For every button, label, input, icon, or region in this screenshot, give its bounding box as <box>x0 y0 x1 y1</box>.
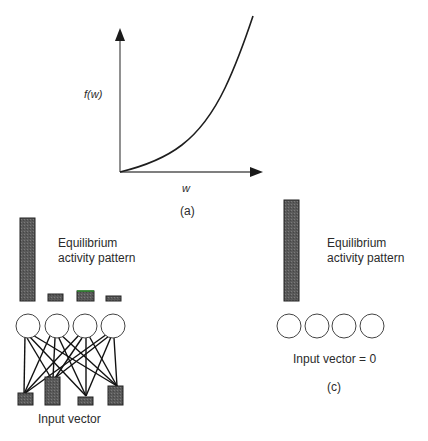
panel-b-title-line2: activity pattern <box>58 251 135 266</box>
panel-b-title-line1: Equilibrium <box>58 236 135 251</box>
output-bar-4 <box>106 296 121 301</box>
panel-c-title-line2: activity pattern <box>327 251 404 266</box>
output-bar-1 <box>20 218 35 301</box>
panel-b-title: Equilibrium activity pattern <box>58 236 135 266</box>
connections <box>24 334 117 396</box>
x-axis-label: w <box>182 182 190 194</box>
input-bar-3 <box>78 397 93 405</box>
unit-2 <box>45 314 69 338</box>
input-bar-1 <box>18 393 33 405</box>
c-unit-1 <box>277 314 301 338</box>
c-unit-2 <box>305 314 329 338</box>
caption-c: (c) <box>327 380 341 394</box>
caption-a: (a) <box>180 204 195 218</box>
panel-c-network <box>277 200 384 338</box>
output-bar-2 <box>48 294 63 301</box>
f-w-curve <box>120 16 253 172</box>
unit-4 <box>101 314 125 338</box>
y-axis-label: f(w) <box>84 88 102 100</box>
panel-c-title: Equilibrium activity pattern <box>327 236 404 266</box>
input-bar-4 <box>108 386 123 405</box>
y-axis-arrow-icon <box>115 28 125 41</box>
x-axis-arrow-icon <box>250 167 263 177</box>
output-bar-3 <box>77 291 94 301</box>
panel-c-input-label: Input vector = 0 <box>293 352 376 366</box>
c-output-bar-1 <box>284 200 299 301</box>
panel-b-input-label: Input vector <box>38 412 101 426</box>
panel-a-plot <box>115 16 263 177</box>
c-unit-3 <box>332 314 356 338</box>
unit-1 <box>16 314 40 338</box>
panel-c-title-line1: Equilibrium <box>327 236 404 251</box>
input-bar-2 <box>45 377 60 405</box>
unit-3 <box>73 314 97 338</box>
figure-canvas <box>0 0 428 441</box>
c-unit-4 <box>360 314 384 338</box>
